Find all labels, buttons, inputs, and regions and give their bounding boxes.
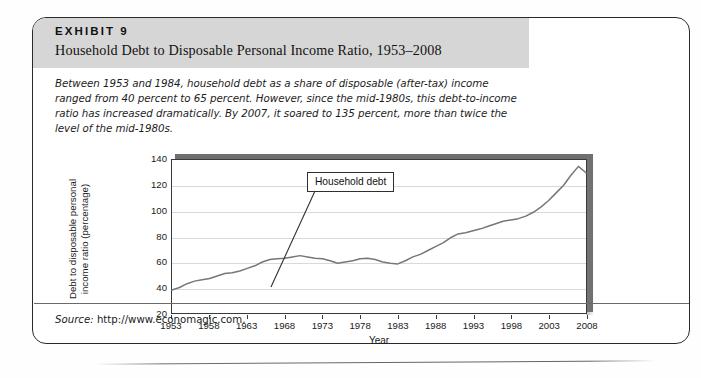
callout-household-debt: Household debt <box>307 172 394 192</box>
exhibit-caption: Between 1953 and 1984, household debt as… <box>55 76 525 136</box>
y-axis-title-line1: Debt to disposable personal <box>67 164 79 314</box>
x-tick-mark <box>322 315 323 319</box>
footer-divider <box>34 303 689 304</box>
exhibit-card: EXHIBIT 9 Household Debt to Disposable P… <box>32 17 690 344</box>
x-tick-mark <box>587 315 588 319</box>
y-axis-title-line2: income ratio (percentage) <box>79 164 91 314</box>
callout-leader-line <box>231 189 361 299</box>
x-tick-label: 1973 <box>302 320 342 331</box>
chart-figure: 20406080100120140 Household debt 1953195… <box>81 134 571 324</box>
scanned-page: EXHIBIT 9 Household Debt to Disposable P… <box>0 0 701 378</box>
y-tick-label: 100 <box>141 205 167 216</box>
x-tick-label: 1988 <box>416 320 456 331</box>
source-line: Source: http://www.economagic.com. <box>55 314 246 325</box>
y-tick-label: 60 <box>141 256 167 267</box>
x-tick-label: 1998 <box>491 320 531 331</box>
x-tick-label: 2008 <box>567 320 607 331</box>
x-tick-mark <box>285 315 286 319</box>
source-url: http://www.economagic.com. <box>97 314 246 325</box>
x-tick-label: 1968 <box>265 320 305 331</box>
x-tick-mark <box>549 315 550 319</box>
x-tick-label: 1993 <box>454 320 494 331</box>
x-tick-mark <box>436 315 437 319</box>
exhibit-title: Household Debt to Disposable Personal In… <box>55 41 529 60</box>
plot-shadow-fade <box>586 160 594 315</box>
x-tick-label: 1983 <box>378 320 418 331</box>
y-tick-label: 120 <box>141 179 167 190</box>
source-label: Source: <box>55 314 94 325</box>
exhibit-label: EXHIBIT 9 <box>55 24 529 39</box>
x-axis-title: Year <box>171 335 587 346</box>
x-tick-label: 1978 <box>340 320 380 331</box>
x-tick-mark <box>398 315 399 319</box>
y-tick-label: 140 <box>141 153 167 164</box>
scan-artifact-line <box>96 360 656 364</box>
exhibit-header-band: EXHIBIT 9 Household Debt to Disposable P… <box>33 18 529 68</box>
x-tick-label: 2003 <box>529 320 569 331</box>
y-axis-ticks: 20406080100120140 <box>137 159 167 314</box>
x-tick-mark <box>474 315 475 319</box>
x-tick-mark <box>247 315 248 319</box>
y-tick-label: 40 <box>141 282 167 293</box>
x-tick-mark <box>511 315 512 319</box>
y-axis-title: Debt to disposable personal income ratio… <box>67 164 97 314</box>
x-tick-mark <box>360 315 361 319</box>
y-tick-label: 80 <box>141 231 167 242</box>
